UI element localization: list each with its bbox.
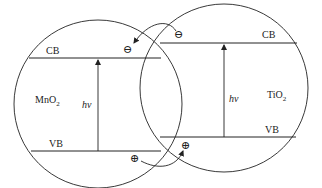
- mno2-vb-label: VB: [49, 138, 63, 149]
- mno2-particle: CB VB MnO2 hν: [14, 20, 182, 188]
- mno2-hv-label: hν: [82, 99, 92, 110]
- tio2-hv-label: hν: [229, 93, 239, 104]
- mno2-cb-label: CB: [46, 45, 60, 56]
- electron-icon-mno2: ⊖: [123, 43, 132, 55]
- band-diagram-svg: CB VB MnO2 hν CB VB TiO2 hν ⊖ ⊖ ⊕ ⊕: [0, 0, 322, 188]
- mno2-label: MnO2: [35, 94, 60, 108]
- hole-icon-mno2: ⊕: [130, 152, 139, 164]
- band-diagram: CB VB MnO2 hν CB VB TiO2 hν ⊖ ⊖ ⊕ ⊕: [0, 0, 322, 188]
- tio2-cb-label: CB: [262, 29, 276, 40]
- tio2-label: TiO2: [267, 89, 287, 103]
- hole-icon-tio2: ⊕: [181, 139, 190, 151]
- tio2-particle: CB VB TiO2 hν: [140, 4, 308, 172]
- electron-transfer: ⊖ ⊖: [123, 24, 183, 55]
- tio2-vb-label: VB: [265, 124, 279, 135]
